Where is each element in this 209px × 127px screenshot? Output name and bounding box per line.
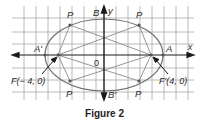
- focus-f-prime: [150, 54, 153, 57]
- label-p3: P: [66, 88, 73, 99]
- label-b: B: [93, 7, 100, 18]
- label-b-prime: B': [108, 89, 117, 100]
- vertex-b: [103, 18, 106, 21]
- focus-f: [57, 54, 60, 57]
- point-p4: [137, 79, 140, 82]
- label-p4: P: [135, 88, 142, 99]
- label-p1: P: [67, 9, 74, 20]
- point-p3: [68, 79, 71, 82]
- vertex-a: [161, 53, 164, 56]
- figure-caption: Figure 2: [0, 108, 209, 119]
- label-focus-f: F(− 4, 0): [11, 76, 45, 86]
- label-a-prime: A': [33, 43, 43, 54]
- vertex-b-prime: [103, 90, 106, 93]
- label-a: A: [165, 43, 172, 54]
- vertex-a-prime: [43, 53, 46, 56]
- point-p1: [68, 23, 71, 26]
- label-y: y: [107, 5, 114, 16]
- label-p2: P: [136, 9, 143, 20]
- point-p2: [137, 23, 140, 26]
- label-origin: 0: [94, 58, 99, 68]
- label-x: x: [187, 42, 193, 52]
- label-focus-f-prime: F'(4, 0): [159, 76, 187, 86]
